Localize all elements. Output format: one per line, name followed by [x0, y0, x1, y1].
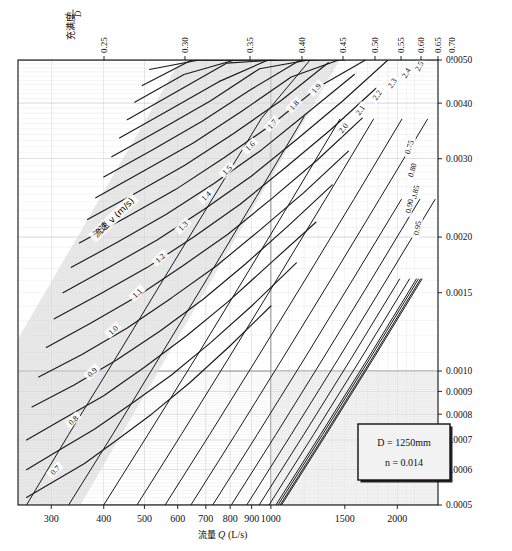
legend-diameter: D = 1250mm [377, 437, 431, 448]
right-tick-label: 0.0015 [446, 288, 472, 298]
right-tick-label: 0.0005 [446, 500, 472, 510]
top-axis-title: 充满度hD [63, 10, 83, 41]
bottom-tick-label: 1000 [261, 513, 281, 524]
bottom-tick-label: 2000 [387, 513, 407, 524]
legend-roughness: n = 0.014 [385, 457, 423, 468]
bottom-axis-title: 流量Q (L/s) [198, 529, 247, 541]
bottom-tick-label: 700 [198, 513, 213, 524]
svg-text:流量: 流量 [198, 529, 216, 540]
bottom-tick-label: 500 [137, 513, 152, 524]
svg-text:Q: Q [218, 529, 226, 540]
top-tick-label: 0.40 [297, 37, 307, 53]
right-tick-label: 0.0050 [446, 55, 472, 65]
bottom-tick-label: 400 [96, 513, 111, 524]
top-tick-label: 0.50 [370, 37, 380, 53]
top-tick-label: 0.60 [416, 37, 426, 53]
legend-box: D = 1250mmn = 0.014 [358, 424, 453, 483]
top-tick-label: 0.35 [245, 37, 255, 53]
bottom-tick-label: 900 [244, 513, 259, 524]
top-tick-label: 0.30 [180, 37, 190, 53]
top-tick-label: 0.70 [447, 37, 457, 53]
nomograph-svg: 0.70.80.91.01.11.21.31.41.51.61.71.81.92… [0, 0, 512, 551]
bottom-tick-label: 800 [223, 513, 238, 524]
right-tick-label: 0.0008 [446, 410, 472, 420]
svg-text:D: D [73, 10, 83, 18]
right-tick-label: 0.0020 [446, 232, 472, 242]
bottom-tick-label: 300 [44, 513, 59, 524]
bottom-tick-label: 600 [170, 513, 185, 524]
nomograph-figure: 0.70.80.91.01.11.21.31.41.51.61.71.81.92… [0, 0, 512, 551]
svg-text:(L/s): (L/s) [228, 529, 247, 541]
top-tick-label: 0.55 [396, 37, 406, 53]
right-tick-label: 0.0010 [446, 366, 472, 376]
svg-text:h: h [63, 12, 73, 16]
top-tick-label: 0.25 [99, 37, 109, 53]
right-tick-label: 0.0030 [446, 154, 472, 164]
right-tick-label: 0.0040 [446, 99, 472, 109]
top-tick-label: 0.45 [338, 37, 348, 53]
right-tick-label: 0.0009 [446, 387, 472, 397]
top-tick-label: 0.65 [433, 37, 443, 53]
bottom-tick-label: 1500 [335, 513, 355, 524]
